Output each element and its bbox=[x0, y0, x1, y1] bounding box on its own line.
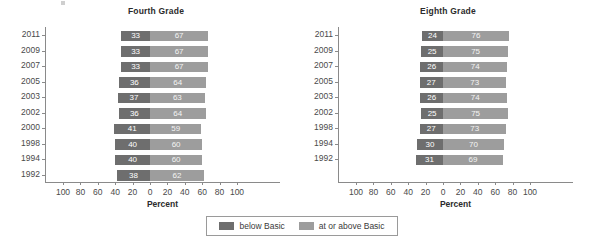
stacked-bar: 2674 bbox=[420, 62, 507, 73]
bar-segment-at-or-above-basic: 67 bbox=[150, 46, 208, 57]
y-axis-tick bbox=[335, 144, 338, 145]
y-axis-label: 2007 bbox=[21, 60, 40, 70]
bar-segment-below-basic: 25 bbox=[421, 108, 443, 119]
x-axis-tick bbox=[202, 182, 203, 185]
x-axis-tick-label: 20 bbox=[421, 187, 430, 197]
stacked-bar: 4060 bbox=[115, 139, 202, 150]
bar-segment-at-or-above-basic: 60 bbox=[150, 139, 202, 150]
bar-row: 20053664 bbox=[45, 75, 280, 91]
y-axis-label: 1992 bbox=[314, 153, 333, 163]
y-axis-tick bbox=[335, 128, 338, 129]
bar-segment-at-or-above-basic: 74 bbox=[443, 93, 507, 104]
bar-row: 19943070 bbox=[338, 137, 573, 153]
bar-segment-below-basic: 40 bbox=[115, 139, 150, 150]
stacked-bar: 2476 bbox=[422, 31, 509, 42]
bar-segment-below-basic: 30 bbox=[417, 139, 443, 150]
bar-segment-below-basic: 38 bbox=[117, 170, 150, 181]
bar-row: 20073367 bbox=[45, 59, 280, 75]
bar-segment-below-basic: 36 bbox=[119, 77, 150, 88]
x-axis-tick bbox=[478, 182, 479, 185]
x-axis-tick-label: 40 bbox=[473, 187, 482, 197]
bar-segment-below-basic: 26 bbox=[420, 93, 443, 104]
bar-segment-below-basic: 33 bbox=[121, 31, 150, 42]
stacked-bar: 3763 bbox=[118, 93, 205, 104]
x-axis-tick-label: 20 bbox=[456, 187, 465, 197]
bar-row: 20112476 bbox=[338, 28, 573, 44]
bar-segment-at-or-above-basic: 63 bbox=[150, 93, 205, 104]
bar-segment-below-basic: 33 bbox=[121, 46, 150, 57]
panel-eighth-grade: Eighth Grade 201124762009257520072674200… bbox=[290, 0, 590, 210]
x-axis-title: Percent bbox=[338, 199, 573, 209]
y-axis-tick bbox=[42, 51, 45, 52]
x-axis-tick-label: 60 bbox=[197, 187, 206, 197]
stacked-bar: 2674 bbox=[420, 93, 507, 104]
x-axis-tick-label: 0 bbox=[148, 187, 153, 197]
bar-row: 20072674 bbox=[338, 59, 573, 75]
y-axis-label: 1994 bbox=[21, 153, 40, 163]
x-axis-tick bbox=[356, 182, 357, 185]
stacked-bar: 3367 bbox=[121, 31, 208, 42]
y-axis-label: 2003 bbox=[21, 91, 40, 101]
legend-swatch-icon bbox=[299, 222, 314, 230]
bar-segment-below-basic: 36 bbox=[119, 108, 150, 119]
x-axis-tick bbox=[460, 182, 461, 185]
panel-title-eighth-grade: Eighth Grade bbox=[290, 6, 590, 16]
bar-row: 20113367 bbox=[45, 28, 280, 44]
x-axis-ticks-fourth-grade: Percent 10080604020020406080100 bbox=[45, 182, 280, 208]
x-axis-tick bbox=[150, 182, 151, 185]
x-axis-tick-label: 60 bbox=[386, 187, 395, 197]
stacked-bar: 2773 bbox=[420, 77, 507, 88]
stacked-bar: 3664 bbox=[119, 77, 206, 88]
x-axis-tick bbox=[63, 182, 64, 185]
stacked-bar: 3070 bbox=[417, 139, 504, 150]
y-axis-tick bbox=[335, 66, 338, 67]
y-axis-label: 2009 bbox=[314, 45, 333, 55]
stacked-bar: 3169 bbox=[416, 155, 503, 166]
x-axis-tick bbox=[237, 182, 238, 185]
y-axis-label: 1998 bbox=[21, 138, 40, 148]
x-axis-tick bbox=[115, 182, 116, 185]
bar-segment-below-basic: 25 bbox=[421, 46, 443, 57]
bar-row: 20022575 bbox=[338, 106, 573, 122]
y-axis-tick bbox=[335, 97, 338, 98]
bar-segment-at-or-above-basic: 64 bbox=[150, 77, 206, 88]
legend-item-at-or-above-basic: at or above Basic bbox=[299, 221, 385, 231]
y-axis-tick bbox=[42, 66, 45, 67]
bar-row: 20052773 bbox=[338, 75, 573, 91]
bar-segment-below-basic: 37 bbox=[118, 93, 150, 104]
y-axis-tick bbox=[335, 82, 338, 83]
plot-area-fourth-grade: 2011336720093367200733672005366420033763… bbox=[45, 27, 280, 182]
bar-row: 20092575 bbox=[338, 44, 573, 60]
bar-row: 19944060 bbox=[45, 152, 280, 168]
bar-segment-at-or-above-basic: 60 bbox=[150, 155, 202, 166]
x-axis-tick bbox=[391, 182, 392, 185]
panel-title-fourth-grade: Fourth Grade bbox=[0, 6, 300, 16]
y-axis-tick bbox=[335, 159, 338, 160]
y-axis-label: 2005 bbox=[21, 76, 40, 86]
bar-row: 19982773 bbox=[338, 121, 573, 137]
bar-row: 19923169 bbox=[338, 152, 573, 168]
y-axis-label: 2011 bbox=[22, 29, 40, 39]
y-axis-label: 2002 bbox=[314, 107, 333, 117]
x-axis-tick bbox=[408, 182, 409, 185]
bar-segment-below-basic: 31 bbox=[416, 155, 443, 166]
bar-segment-below-basic: 27 bbox=[420, 77, 443, 88]
x-axis-tick bbox=[373, 182, 374, 185]
stacked-bar: 3367 bbox=[121, 46, 208, 57]
y-axis-tick bbox=[335, 35, 338, 36]
x-axis-tick-label: 80 bbox=[215, 187, 224, 197]
stacked-bar: 4060 bbox=[115, 155, 202, 166]
x-axis-tick-label: 100 bbox=[349, 187, 363, 197]
bar-segment-below-basic: 24 bbox=[422, 31, 443, 42]
x-axis-tick-label: 40 bbox=[110, 187, 119, 197]
bar-segment-at-or-above-basic: 62 bbox=[150, 170, 204, 181]
stacked-bar: 3367 bbox=[121, 62, 208, 73]
x-axis-tick bbox=[495, 182, 496, 185]
x-axis-tick-label: 20 bbox=[163, 187, 172, 197]
x-axis-tick-label: 100 bbox=[56, 187, 70, 197]
x-axis-tick bbox=[220, 182, 221, 185]
legend-item-below-basic: below Basic bbox=[219, 221, 284, 231]
y-axis-label: 2003 bbox=[314, 91, 333, 101]
bar-row: 20033763 bbox=[45, 90, 280, 106]
x-axis-tick-label: 20 bbox=[128, 187, 137, 197]
